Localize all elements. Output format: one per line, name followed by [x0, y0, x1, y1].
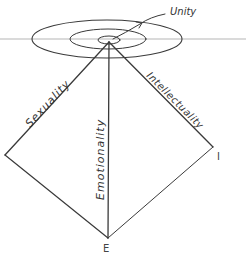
edge-intellectuality — [109, 42, 213, 147]
base-left — [5, 155, 108, 238]
unity-arrow — [113, 14, 165, 39]
label-unity: Unity — [170, 6, 197, 17]
label-sexuality: Sexuality — [23, 77, 73, 130]
label-vertex-e: E — [103, 243, 109, 254]
edge-emotionality — [108, 42, 109, 238]
label-emotionality: Emotionality — [94, 119, 107, 200]
pyramid-diagram: Unity Sexuality Emotionality Intellectua… — [0, 0, 246, 258]
base-right — [108, 147, 213, 238]
label-intellectuality: Intellectuality — [145, 70, 207, 132]
label-vertex-i: I — [217, 151, 220, 162]
